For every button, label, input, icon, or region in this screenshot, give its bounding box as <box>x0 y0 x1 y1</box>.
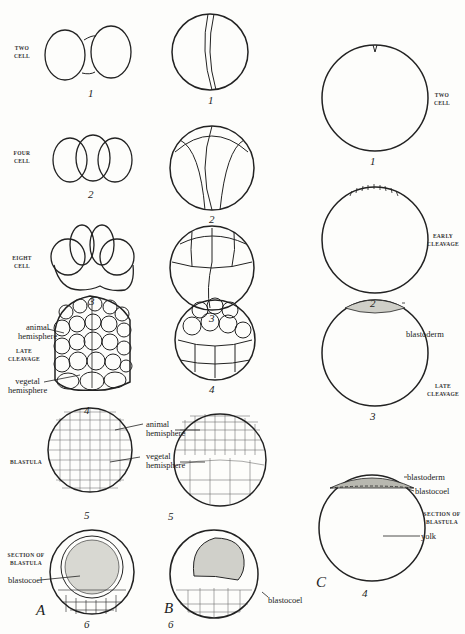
b5-animal-hemisphere-label: animalhemisphere <box>146 420 185 438</box>
a5-blastula-drawing <box>48 408 143 492</box>
label-line: CELL <box>14 158 30 164</box>
c2-number: 2 <box>370 297 376 309</box>
a6-stage-label: SECTION OFBLASTULA <box>4 551 48 567</box>
a3-stage-label: EIGHTCELL <box>2 254 42 270</box>
column-letter-a: A <box>36 602 45 619</box>
c4-number: 4 <box>362 587 368 599</box>
c4-section-blastula-drawing <box>319 475 425 581</box>
b3-number: 3 <box>209 312 215 324</box>
b5-number: 5 <box>168 510 174 522</box>
b2-four-cell-drawing <box>170 126 254 210</box>
c1-number: 1 <box>370 155 376 167</box>
annotation-line: hemisphere <box>146 460 185 470</box>
c3-stage-label: LATECLEAVAGE <box>422 382 464 398</box>
b1-number: 1 <box>208 94 214 106</box>
a5-number: 5 <box>84 509 90 521</box>
label-line: SECTION OF <box>424 511 461 517</box>
a5-stage-label: BLASTULA <box>6 458 46 466</box>
c3-number: 3 <box>370 410 376 422</box>
label-line: CELL <box>14 53 30 59</box>
b2-number: 2 <box>209 213 215 225</box>
label-line: BLASTULA <box>10 560 42 566</box>
c4-stage-label: SECTION OFBLASTULA <box>420 510 464 526</box>
a3-eight-cell-drawing <box>51 225 134 291</box>
a1-number: 1 <box>88 87 94 99</box>
a6-number: 6 <box>84 618 90 630</box>
c1-two-cell-drawing <box>322 45 428 151</box>
b3-eight-cell-drawing <box>170 226 254 310</box>
column-letter-b: B <box>164 600 173 617</box>
b1-two-cell-drawing <box>172 14 248 90</box>
c4-blastocoel-label: blastocoel <box>415 487 449 496</box>
label-line: CLEAVAGE <box>427 241 459 247</box>
label-line: LATE <box>16 348 32 354</box>
b6-section-blastula-drawing <box>170 530 268 618</box>
c3-late-cleavage-drawing <box>322 300 428 406</box>
annotation-line: hemisphere <box>146 428 185 438</box>
a4-animal-hemisphere-label: animalhemisphere <box>18 323 57 341</box>
a1-stage-label: TWOCELL <box>2 44 42 60</box>
label-line: LATE <box>435 383 451 389</box>
a4-vegetal-hemisphere-label: vegetalhemisphere <box>8 377 47 395</box>
c2-stage-label: EARLYCLEAVAGE <box>422 232 464 248</box>
label-line: TWO <box>15 45 29 51</box>
label-line: CELL <box>434 100 450 106</box>
a6-blastocoel-label: blastocoel <box>8 576 42 585</box>
c3-blastoderm-label: blastoderm <box>406 330 444 339</box>
label-line: CELL <box>14 263 30 269</box>
label-line: CLEAVAGE <box>427 391 459 397</box>
c4-blastoderm-label: blastoderm <box>407 473 445 482</box>
a2-stage-label: FOURCELL <box>2 149 42 165</box>
b6-number: 6 <box>168 618 174 630</box>
b5-vegetal-hemisphere-label: vegetalhemisphere <box>146 452 185 470</box>
annotation-line: hemisphere <box>8 385 47 395</box>
a4-late-cleavage-drawing <box>44 296 132 390</box>
b6-blastocoel-label: blastocoel <box>268 596 302 605</box>
a2-four-cell-drawing <box>53 135 132 182</box>
label-line: BLASTULA <box>426 519 458 525</box>
a3-number: 3 <box>89 295 95 307</box>
label-line: EIGHT <box>12 255 32 261</box>
a6-section-blastula-drawing <box>40 530 134 614</box>
a2-number: 2 <box>88 188 94 200</box>
label-line: EARLY <box>433 233 453 239</box>
label-line: SECTION OF <box>8 552 45 558</box>
label-line: TWO <box>435 92 449 98</box>
annotation-line: hemisphere <box>18 331 57 341</box>
a4-stage-label: LATECLEAVAGE <box>2 347 46 363</box>
c4-yolk-label: yolk <box>421 532 436 541</box>
c1-stage-label: TWOCELL <box>422 91 462 107</box>
label-line: CLEAVAGE <box>8 356 40 362</box>
embryo-drawings <box>0 0 465 634</box>
b5-blastula-drawing <box>174 414 266 506</box>
b4-number: 4 <box>209 383 215 395</box>
column-letter-c: C <box>316 574 326 591</box>
a4-number: 4 <box>84 404 90 416</box>
label-line: FOUR <box>14 150 31 156</box>
a1-two-cell-drawing <box>45 26 131 80</box>
c2-early-cleavage-drawing <box>322 184 428 293</box>
